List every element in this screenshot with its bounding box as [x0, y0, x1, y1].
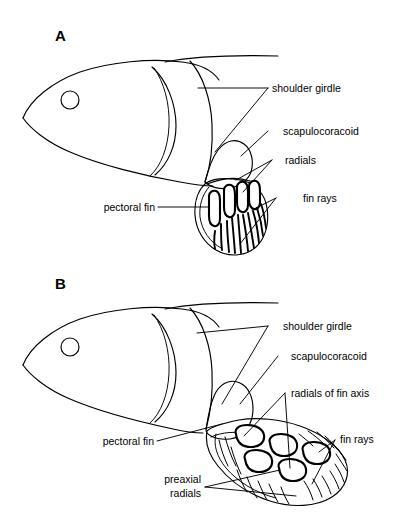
- label-preaxial-radials-line2: radials: [170, 487, 201, 499]
- label-pectoral-fin-b: pectoral fin: [103, 435, 155, 447]
- fin-axis-radial-b-4: [245, 450, 273, 472]
- label-scapulocoracoid-b: scapulocoracoid: [291, 350, 367, 362]
- fin-axis-radial-b-1: [236, 425, 265, 447]
- label-fin-rays-a: fin rays: [303, 192, 337, 204]
- radial-a-4: [249, 181, 260, 209]
- label-fin-rays-b: fin rays: [340, 433, 374, 445]
- panel-b-letter: B: [55, 275, 66, 292]
- panel-a-letter: A: [55, 27, 66, 44]
- label-radials-of-fin-axis-b: radials of fin axis: [291, 387, 369, 399]
- fin-axis-radial-b-3: [303, 442, 331, 464]
- label-scapulocoracoid-a: scapulocoracoid: [283, 125, 359, 137]
- radial-a-2: [224, 185, 235, 217]
- figure-root: A: [0, 0, 408, 520]
- radial-a-3: [237, 182, 248, 212]
- label-preaxial-radials-line1: preaxial: [164, 473, 201, 485]
- label-shoulder-girdle-b: shoulder girdle: [283, 320, 352, 332]
- label-pectoral-fin-a: pectoral fin: [104, 201, 156, 213]
- fin-axis-radial-b-2: [270, 434, 298, 456]
- label-shoulder-girdle-a: shoulder girdle: [272, 82, 341, 94]
- label-radials-a: radials: [285, 154, 316, 166]
- pectoral-fin-diagram: A: [0, 0, 408, 520]
- fin-axis-radial-b-5: [279, 459, 307, 481]
- radial-a-1: [209, 191, 220, 226]
